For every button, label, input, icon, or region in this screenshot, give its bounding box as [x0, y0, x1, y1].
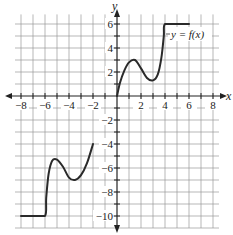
x-axis-arrow-left: [5, 93, 12, 99]
x-axis-label: x: [225, 89, 232, 103]
x-tick-label: 8: [210, 99, 216, 111]
x-tick-label: 6: [186, 99, 192, 111]
x-tick-label: −8: [15, 99, 27, 111]
x-tick-label: 4: [162, 99, 168, 111]
y-tick-label: 2: [108, 66, 114, 78]
x-tick-label: −4: [63, 99, 75, 111]
x-tick-label: 2: [138, 99, 144, 111]
function-graph: −8−6−4−22468642−2−4−6−8−10 y = f(x) x y: [0, 0, 233, 235]
y-tick-label: −4: [101, 138, 113, 150]
x-tick-label: −2: [87, 99, 99, 111]
y-tick-label: −8: [101, 186, 113, 198]
function-annotation: y = f(x): [166, 27, 212, 41]
y-axis-label: y: [111, 0, 118, 13]
y-tick-label: −6: [101, 162, 113, 174]
y-tick-label: 6: [108, 18, 114, 30]
x-tick-label: −6: [39, 99, 51, 111]
axes: [5, 9, 227, 233]
function-label: y = f(x): [170, 28, 204, 41]
y-axis-arrow-down: [114, 225, 120, 233]
y-tick-label: −2: [101, 114, 113, 126]
y-tick-label: 4: [108, 42, 114, 54]
y-tick-label: −10: [96, 210, 114, 222]
